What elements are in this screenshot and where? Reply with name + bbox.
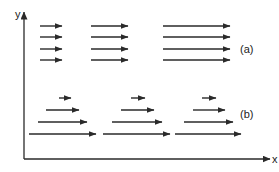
axes: y x (15, 8, 278, 165)
uniform-flow-arrows-group-a (40, 26, 230, 60)
y-axis-label: y (15, 8, 21, 20)
velocity-profile-diagram: y x (a) (b) (0, 0, 279, 172)
x-axis-label: x (272, 153, 278, 165)
group-b-label: (b) (240, 108, 253, 120)
shear-flow-arrows-group-b (29, 98, 241, 134)
group-a-label: (a) (240, 43, 253, 55)
